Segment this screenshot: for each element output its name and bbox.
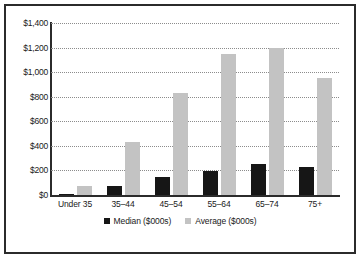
legend-swatch-icon [104, 218, 110, 224]
plot-area [51, 23, 339, 195]
bar-group [147, 23, 195, 195]
y-axis-tick-label: $200 [6, 165, 48, 175]
bar-group [195, 23, 243, 195]
bar-group [291, 23, 339, 195]
y-axis-tick-label: $600 [6, 116, 48, 126]
x-axis-tick-label: 65–74 [255, 199, 278, 209]
chart-legend: Median ($000s)Average ($000s) [6, 216, 354, 226]
bar-average [221, 54, 236, 195]
bar-median [155, 177, 170, 195]
bar-average [269, 48, 284, 195]
legend-label: Average ($000s) [195, 216, 256, 226]
bar-average [125, 142, 140, 195]
bar-average [77, 186, 92, 195]
x-axis-line [50, 195, 340, 197]
x-axis-tick-label: 75+ [308, 199, 322, 209]
bar-median [251, 164, 266, 195]
legend-entry: Median ($000s) [104, 216, 172, 226]
x-axis-tick-label: Under 35 [58, 199, 92, 209]
bar-median [107, 186, 122, 195]
y-axis-tick-labels: $0$200$400$600$800$1,000$1,200$1,400 [6, 23, 48, 195]
y-axis-tick-label: $1,200 [6, 43, 48, 53]
legend-entry: Average ($000s) [185, 216, 256, 226]
legend-swatch-icon [185, 218, 191, 224]
y-axis-tick-label: $1,000 [6, 67, 48, 77]
chart-canvas: $0$200$400$600$800$1,000$1,200$1,400 Und… [6, 6, 354, 252]
bar-median [203, 171, 218, 195]
x-axis-tick-labels: Under 3535–4445–5455–6465–7475+ [51, 199, 339, 213]
y-axis-tick-label: $0 [6, 190, 48, 200]
bar-average [173, 93, 188, 195]
x-axis-tick-label: 55–64 [207, 199, 230, 209]
bar-average [317, 78, 332, 195]
bar-group [99, 23, 147, 195]
y-axis-tick-label: $400 [6, 141, 48, 151]
x-axis-tick-label: 35–44 [111, 199, 134, 209]
x-axis-tick-label: 45–54 [159, 199, 182, 209]
y-axis-tick-label: $1,400 [6, 18, 48, 28]
chart-frame: $0$200$400$600$800$1,000$1,200$1,400 Und… [4, 4, 356, 254]
y-axis-tick-label: $800 [6, 92, 48, 102]
bar-group [243, 23, 291, 195]
legend-label: Median ($000s) [114, 216, 172, 226]
bar-median [299, 167, 314, 195]
bar-median [59, 194, 74, 195]
bar-group [51, 23, 99, 195]
